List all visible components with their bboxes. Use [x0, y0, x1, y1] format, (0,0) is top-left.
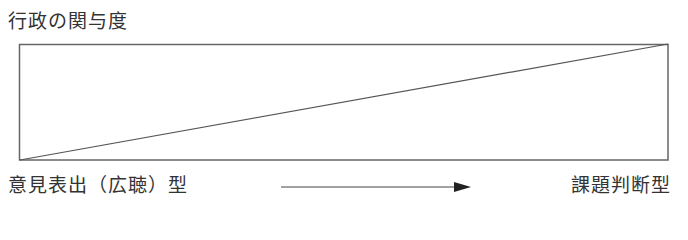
axis-label-right: 課題判断型	[571, 170, 671, 197]
diagonal-trend-line	[20, 44, 668, 160]
axis-label-left: 意見表出（広聴）型	[8, 170, 188, 197]
arrow-right-icon	[281, 182, 471, 192]
